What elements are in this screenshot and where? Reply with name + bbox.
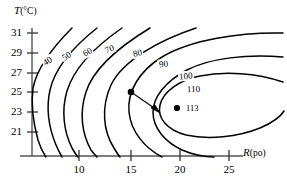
x-tick-label-25: 25	[221, 163, 237, 175]
y-tick-label-21: 21	[6, 125, 22, 137]
start-point-marker	[128, 89, 135, 96]
y-tick-label-23: 23	[6, 105, 22, 117]
y-tick-label-25: 25	[6, 85, 22, 97]
maximum-value-label: 113	[186, 103, 198, 113]
contour-label-110: 110	[186, 84, 202, 95]
x-tick-label-15: 15	[123, 163, 139, 175]
x-tick-label-10: 10	[71, 163, 87, 175]
contour-plot-figure: T(°C) R(po) 31 29 27 25 23 21 10 15 20 2…	[0, 0, 287, 186]
maximum-point-marker	[174, 105, 180, 111]
x-axis-title: R(po)	[243, 146, 266, 158]
contour-line-100	[153, 56, 283, 157]
y-axis-title: T(°C)	[14, 4, 37, 16]
contour-curves	[32, 28, 284, 157]
x-tick-label-20: 20	[172, 163, 188, 175]
y-tick-label-27: 27	[6, 66, 22, 78]
y-tick-label-31: 31	[6, 26, 22, 38]
contour-plot-canvas	[0, 0, 287, 186]
contour-label-100: 100	[178, 70, 194, 81]
contour-label-90: 90	[157, 58, 169, 69]
x-axis-variable: R	[243, 146, 250, 158]
x-axis-unit: (po)	[250, 148, 266, 158]
y-tick-label-29: 29	[6, 46, 22, 58]
y-axis-unit: (°C)	[20, 6, 36, 16]
contour-line-90	[129, 33, 283, 157]
gradient-step-arrow	[131, 92, 160, 113]
